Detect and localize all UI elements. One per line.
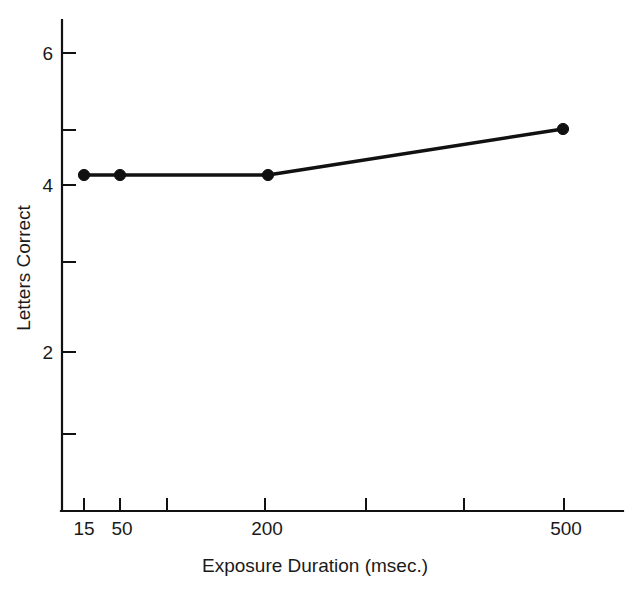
data-point-15	[78, 169, 89, 180]
data-point-50	[114, 169, 125, 180]
y-tick-label-4: 4	[42, 176, 53, 195]
x-tick-label-200: 200	[251, 519, 283, 538]
x-tick-label-50: 50	[111, 519, 132, 538]
line-chart-plot	[0, 0, 631, 589]
y-tick-label-2: 2	[42, 343, 53, 362]
chart-container: 6 4 2 15 50 200 500 Exposure Duration (m…	[0, 0, 631, 589]
data-point-500	[557, 123, 568, 134]
y-axis-title: Letters Correct	[13, 205, 35, 331]
x-tick-label-15: 15	[73, 519, 94, 538]
data-point-200	[262, 169, 273, 180]
chart-background	[0, 0, 631, 589]
x-tick-label-500: 500	[550, 519, 582, 538]
y-tick-label-6: 6	[42, 44, 53, 63]
x-axis-title: Exposure Duration (msec.)	[202, 555, 428, 577]
